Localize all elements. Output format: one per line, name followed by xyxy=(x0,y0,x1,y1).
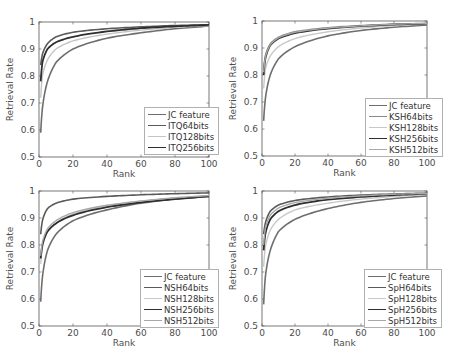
x-tick-label: 40 xyxy=(322,158,334,168)
x-tick-label: 20 xyxy=(67,328,79,338)
chart-legend: JC featureITQ64bitsITQ128bitsITQ256bits xyxy=(144,107,219,155)
legend-item: KSH64bits xyxy=(369,111,438,122)
y-tick-label: 1 xyxy=(252,16,258,26)
legend-label: JC feature xyxy=(168,110,210,120)
legend-swatch xyxy=(369,138,387,139)
x-tick-label: 0 xyxy=(36,159,42,169)
x-tick-label: 80 xyxy=(388,328,400,338)
x-tick-label: 0 xyxy=(36,328,42,338)
legend-swatch xyxy=(144,309,162,310)
legend-item: ITQ128bits xyxy=(148,131,214,142)
legend-swatch xyxy=(369,105,387,106)
legend-item: KSH512bits xyxy=(369,144,438,155)
y-axis-label: Retrieval Rate xyxy=(5,226,15,290)
legend-item: NSH512bits xyxy=(144,315,214,326)
legend-item: ITQ256bits xyxy=(148,142,214,153)
x-tick-label: 100 xyxy=(418,328,435,338)
x-tick-label: 60 xyxy=(135,159,147,169)
legend-label: NSH64bits xyxy=(164,283,208,293)
y-tick-label: 1 xyxy=(29,17,35,27)
chart-panel-ksh: 0.50.60.70.80.91020406080100RankRetrieva… xyxy=(227,0,454,179)
y-tick-label: 0.6 xyxy=(244,294,259,304)
legend-swatch xyxy=(369,127,387,128)
legend-swatch xyxy=(368,276,386,277)
legend-item: KSH256bits xyxy=(369,133,438,144)
legend-label: NSH128bits xyxy=(164,294,214,304)
x-tick-label: 40 xyxy=(101,159,113,169)
legend-label: SpH64bits xyxy=(388,283,432,293)
y-axis-label: Retrieval Rate xyxy=(228,56,238,120)
y-tick-label: 0.7 xyxy=(21,267,35,277)
y-tick-label: 0.5 xyxy=(244,321,258,331)
legend-swatch xyxy=(144,298,162,299)
legend-item: NSH64bits xyxy=(144,282,214,293)
x-tick-label: 100 xyxy=(200,328,217,338)
legend-label: KSH128bits xyxy=(389,123,438,133)
legend-label: NSH256bits xyxy=(164,305,214,315)
legend-swatch xyxy=(148,147,166,148)
y-tick-label: 1 xyxy=(252,186,258,196)
legend-item: JC feature xyxy=(148,109,214,120)
y-tick-label: 0.7 xyxy=(244,97,258,107)
y-tick-label: 0.8 xyxy=(21,71,36,81)
legend-label: SpH256bits xyxy=(388,305,437,315)
legend-swatch xyxy=(148,114,166,115)
y-tick-label: 0.9 xyxy=(21,44,36,54)
y-tick-label: 0.9 xyxy=(21,213,36,223)
legend-swatch xyxy=(368,309,386,310)
legend-item: JC feature xyxy=(368,271,437,282)
legend-label: ITQ64bits xyxy=(168,121,209,131)
legend-swatch xyxy=(369,149,387,150)
y-tick-label: 0.8 xyxy=(244,240,259,250)
y-tick-label: 0.5 xyxy=(244,151,258,161)
x-tick-label: 0 xyxy=(259,328,265,338)
chart-panel-sph: 0.50.60.70.80.91020406080100RankRetrieva… xyxy=(227,179,454,358)
legend-swatch xyxy=(144,320,162,321)
y-tick-label: 0.8 xyxy=(21,240,36,250)
legend-swatch xyxy=(368,320,386,321)
x-tick-label: 80 xyxy=(169,328,181,338)
legend-swatch xyxy=(148,136,166,137)
legend-item: NSH256bits xyxy=(144,304,214,315)
legend-label: ITQ128bits xyxy=(168,132,214,142)
legend-swatch xyxy=(368,287,386,288)
legend-item: SpH512bits xyxy=(368,315,437,326)
legend-label: SpH512bits xyxy=(388,316,437,326)
y-tick-label: 0.9 xyxy=(244,213,259,223)
legend-label: KSH64bits xyxy=(389,112,433,122)
legend-label: JC feature xyxy=(164,272,206,282)
chart-legend: JC featureSpH64bitsSpH128bitsSpH256bitsS… xyxy=(364,269,442,328)
x-tick-label: 20 xyxy=(289,158,301,168)
y-axis-label: Retrieval Rate xyxy=(5,57,15,121)
y-tick-label: 1 xyxy=(29,186,35,196)
y-axis-label: Retrieval Rate xyxy=(228,226,238,290)
legend-item: SpH256bits xyxy=(368,304,437,315)
legend-label: NSH512bits xyxy=(164,316,214,326)
legend-item: NSH128bits xyxy=(144,293,214,304)
legend-label: KSH256bits xyxy=(389,134,438,144)
chart-legend: JC featureKSH64bitsKSH128bitsKSH256bitsK… xyxy=(365,98,443,157)
legend-swatch xyxy=(369,116,387,117)
x-tick-label: 20 xyxy=(289,328,301,338)
x-tick-label: 80 xyxy=(388,158,400,168)
legend-item: ITQ64bits xyxy=(148,120,214,131)
y-tick-label: 0.7 xyxy=(244,267,258,277)
x-tick-label: 0 xyxy=(259,158,265,168)
y-tick-label: 0.6 xyxy=(21,125,36,135)
x-tick-label: 100 xyxy=(200,159,217,169)
legend-swatch xyxy=(144,287,162,288)
legend-swatch xyxy=(148,125,166,126)
x-axis-label: Rank xyxy=(113,169,136,179)
x-tick-label: 20 xyxy=(67,159,79,169)
legend-swatch xyxy=(368,298,386,299)
legend-item: JC feature xyxy=(369,100,438,111)
legend-label: SpH128bits xyxy=(388,294,437,304)
x-tick-label: 60 xyxy=(355,328,367,338)
y-tick-label: 0.5 xyxy=(21,321,35,331)
legend-label: JC feature xyxy=(388,272,430,282)
legend-item: KSH128bits xyxy=(369,122,438,133)
y-tick-label: 0.7 xyxy=(21,98,35,108)
x-tick-label: 60 xyxy=(355,158,367,168)
y-tick-label: 0.6 xyxy=(21,294,36,304)
x-tick-label: 40 xyxy=(101,328,113,338)
